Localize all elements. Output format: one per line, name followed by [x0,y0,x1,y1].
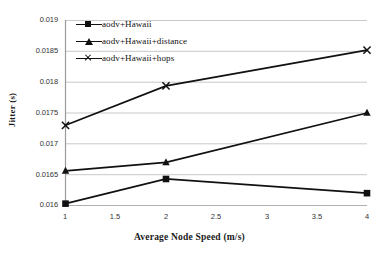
chart-legend: aodv+Hawaii aodv+Hawaii+distance aodv+Ha… [76,18,187,64]
y-axis-label-text: Jitter (s) [7,93,17,128]
legend-label-aodv-hawaii-hops: aodv+Hawaii+hops [102,53,174,63]
x-tick-label-4: 4 [354,212,379,221]
square-marker-icon [76,18,102,30]
jitter-line-chart: Jitter (s) 0.019 0.0185 0.018 0.0175 0.0… [0,0,379,256]
x-tick-label-15: 1.5 [102,212,128,221]
y-tick-label-0017: 0.017 [18,139,58,148]
x-tick-label-1: 1 [52,212,78,221]
y-tick-label-0018: 0.018 [18,77,58,86]
legend-label-aodv-hawaii-distance: aodv+Hawaii+distance [102,36,187,46]
x-tick-label-2: 2 [153,212,179,221]
y-tick-label-00175: 0.0175 [18,108,58,117]
x-tick-label-3: 3 [254,212,280,221]
legend-item-aodv-hawaii-distance[interactable]: aodv+Hawaii+distance [76,35,187,47]
legend-item-aodv-hawaii[interactable]: aodv+Hawaii [76,18,187,30]
series-aodv-hawaii [62,176,370,207]
series-aodv-hawaii-distance [62,109,371,174]
x-tick-label-25: 2.5 [203,212,229,221]
triangle-marker-icon [76,35,102,47]
x-marker-icon [76,52,102,64]
x-tick-label-35: 3.5 [304,212,330,221]
y-tick-label-00185: 0.0185 [18,46,58,55]
y-tick-label-0016: 0.016 [18,200,58,209]
y-tick-label-0019: 0.019 [18,15,58,24]
legend-label-aodv-hawaii: aodv+Hawaii [102,19,152,29]
y-tick-label-00165: 0.0165 [18,170,58,179]
legend-item-aodv-hawaii-hops[interactable]: aodv+Hawaii+hops [76,52,187,64]
x-axis-label-text: Average Node Speed (m/s) [0,232,379,242]
